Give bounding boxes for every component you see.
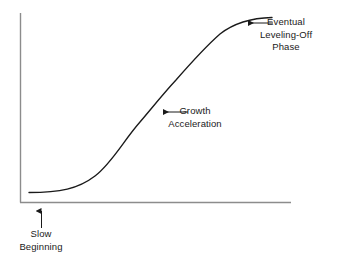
annotation-slow-line1: Slow [5, 228, 77, 241]
annotation-slow-line2: Beginning [5, 241, 77, 254]
annotation-leveling-line1: Eventual [236, 16, 336, 29]
annotation-leveling-line2: Leveling-Off [236, 29, 336, 42]
s-curve-figure: Eventual Leveling-Off Phase Growth Accel… [0, 0, 338, 267]
annotation-leveling-off: Eventual Leveling-Off Phase [236, 16, 336, 54]
annotation-growth-acceleration: Growth Acceleration [150, 105, 240, 130]
annotation-growth-line1: Growth [150, 105, 240, 118]
annotation-leveling-line3: Phase [236, 41, 336, 54]
annotation-slow-beginning: Slow Beginning [5, 228, 77, 253]
annotation-growth-line2: Acceleration [150, 118, 240, 131]
